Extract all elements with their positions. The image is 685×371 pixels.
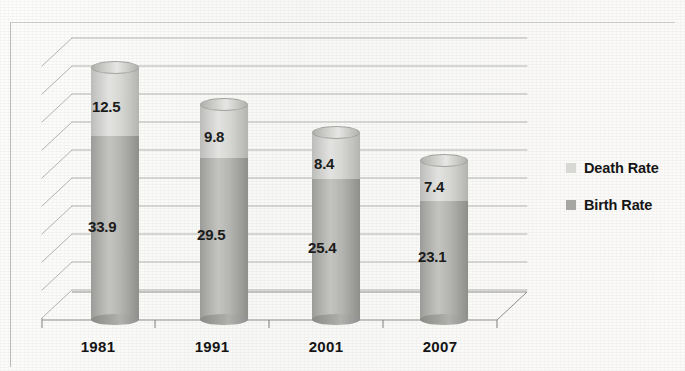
bar-2007-death-label: 7.4 xyxy=(424,178,444,195)
legend-item-birth-rate[interactable]: Birth Rate xyxy=(566,197,659,213)
bar-1981-death-label: 12.5 xyxy=(92,98,120,115)
bar-1981-top-cap xyxy=(91,61,139,74)
bar-1981-base xyxy=(91,314,139,325)
legend-swatch-death-rate-icon xyxy=(566,163,576,173)
bar-2007-birth-label: 23.1 xyxy=(418,248,446,265)
x-axis-label-1991: 1991 xyxy=(182,338,242,355)
chart-legend: Death Rate Birth Rate xyxy=(566,160,659,234)
bar-1991-birth-label: 29.5 xyxy=(197,226,225,243)
bar-2001-base xyxy=(312,314,360,325)
grid-depth-connectors xyxy=(42,38,72,318)
x-axis-label-2007: 2007 xyxy=(410,338,470,355)
legend-swatch-birth-rate-icon xyxy=(566,200,576,210)
bar-1981-birth-label: 33.9 xyxy=(88,218,116,235)
bar-1991-base xyxy=(200,314,248,325)
bar-2001-birth-label: 25.4 xyxy=(308,239,336,256)
legend-label-birth-rate: Birth Rate xyxy=(584,197,652,213)
x-axis-label-2001: 2001 xyxy=(296,338,356,355)
x-axis-label-1981: 1981 xyxy=(68,338,128,355)
legend-label-death-rate: Death Rate xyxy=(584,160,659,176)
bar-1991-death-label: 9.8 xyxy=(204,128,224,145)
bar-2001-death-label: 8.4 xyxy=(314,155,334,172)
bar-1991-top-cap xyxy=(200,98,248,111)
bar-2001-top-cap xyxy=(312,126,360,139)
bar-2007-base xyxy=(420,314,468,325)
bar-2007-top-cap xyxy=(420,154,468,167)
legend-item-death-rate[interactable]: Death Rate xyxy=(566,160,659,176)
